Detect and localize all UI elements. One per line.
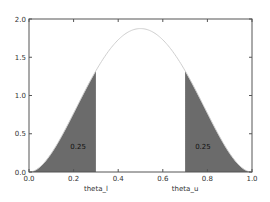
shaded-region-1 <box>29 71 96 172</box>
y-tick-label: 0.0 <box>15 169 26 177</box>
y-tick-label: 1.0 <box>15 92 26 100</box>
area-label: 0.25 <box>195 143 211 151</box>
x-annotation-theta-u: theta_u <box>172 185 198 193</box>
x-tick-label: 0.6 <box>157 175 169 183</box>
area-label: 0.25 <box>70 143 86 151</box>
shaded-tail-regions: 0.250.25 <box>29 71 252 172</box>
annotations: theta_ltheta_u <box>84 185 198 193</box>
x-tick-label: 0.2 <box>68 175 79 183</box>
beta-pdf-chart: 0.250.25 0.00.20.40.60.81.0 0.00.51.01.5… <box>0 0 270 202</box>
y-tick-label: 2.0 <box>15 16 26 24</box>
y-tick-label: 1.5 <box>15 54 26 62</box>
y-tick-label: 0.5 <box>15 130 26 138</box>
x-tick-label: 0.4 <box>113 175 125 183</box>
shaded-region-2 <box>185 71 252 172</box>
x-tick-label: 0.8 <box>202 175 213 183</box>
x-annotation-theta-l: theta_l <box>84 185 108 193</box>
x-tick-label: 1.0 <box>246 175 257 183</box>
